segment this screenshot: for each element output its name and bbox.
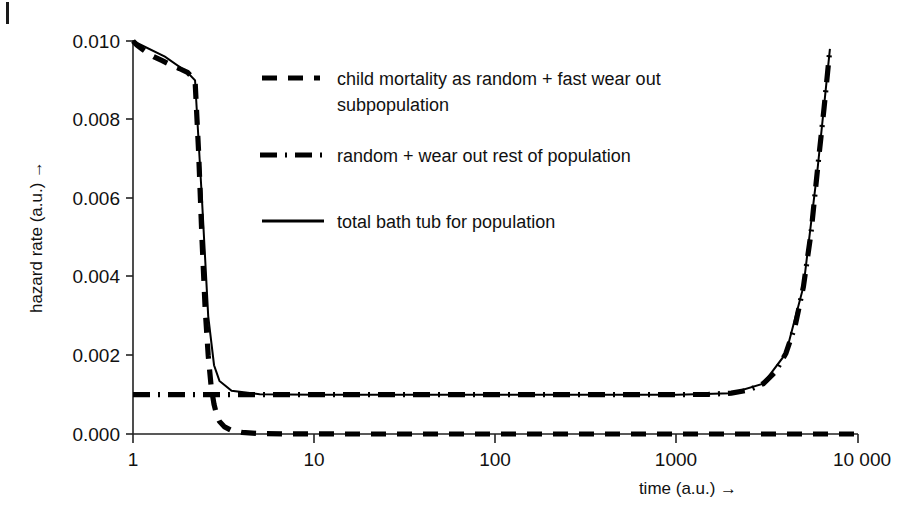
- y-tick-marks: [126, 41, 133, 434]
- y-axis-title: hazard rate (a.u.) →: [27, 161, 46, 313]
- legend: child mortality as random + fast wear ou…: [260, 69, 661, 232]
- curve-child-mortality: [133, 41, 858, 434]
- legend-label-continued: subpopulation: [337, 95, 449, 115]
- x-tick-label: 1000: [655, 449, 697, 470]
- plot-curves: [133, 41, 858, 434]
- chart-canvas: 0.000 0.002 0.004 0.006 0.008 0.010 1 10…: [0, 0, 924, 508]
- y-tick-label: 0.000: [72, 424, 120, 445]
- y-tick-label: 0.010: [72, 31, 120, 52]
- legend-label: child mortality as random + fast wear ou…: [337, 69, 661, 89]
- legend-entry-child-mortality: child mortality as random + fast wear ou…: [262, 69, 661, 115]
- x-tick-labels: 1 10 100 1000 10 000: [128, 449, 891, 470]
- x-tick-label: 100: [479, 449, 511, 470]
- x-axis-title: time (a.u.) →: [639, 479, 737, 498]
- y-tick-labels: 0.000 0.002 0.004 0.006 0.008 0.010: [72, 31, 120, 445]
- y-tick-label: 0.004: [72, 266, 120, 287]
- x-tick-label: 10: [303, 449, 324, 470]
- legend-label: random + wear out rest of population: [337, 146, 631, 166]
- hazard-rate-figure: 0.000 0.002 0.004 0.006 0.008 0.010 1 10…: [0, 0, 924, 508]
- y-tick-label: 0.002: [72, 345, 120, 366]
- axes: [133, 40, 858, 434]
- x-tick-label: 1: [128, 449, 139, 470]
- y-tick-label: 0.008: [72, 109, 120, 130]
- x-tick-label: 10 000: [833, 449, 891, 470]
- legend-label: total bath tub for population: [337, 212, 555, 232]
- y-tick-label: 0.006: [72, 188, 120, 209]
- legend-entry-total-bathtub: total bath tub for population: [262, 212, 555, 232]
- legend-entry-random-wear-out: random + wear out rest of population: [260, 146, 631, 166]
